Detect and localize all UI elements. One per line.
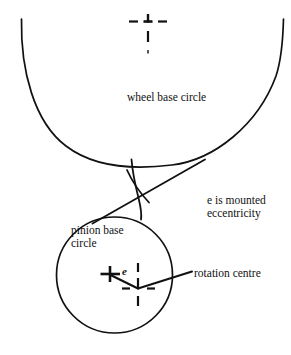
label-eccentricity-note: e is mountedeccentricity bbox=[207, 194, 266, 219]
label-e-symbol: e bbox=[122, 265, 127, 278]
rotation-centre-leader-line bbox=[138, 272, 192, 289]
label-pinion-base-circle: pinion basecircle bbox=[71, 224, 124, 249]
gear-diagram-canvas bbox=[0, 0, 291, 355]
gear-diagram: wheel base circle e is mountedeccentrici… bbox=[0, 0, 291, 355]
label-rotation-centre: rotation centre bbox=[194, 267, 261, 280]
label-wheel-base-circle: wheel base circle bbox=[127, 91, 206, 104]
label-pinion-base-circle-line2: circle bbox=[71, 237, 97, 249]
label-eccentricity-line2: eccentricity bbox=[207, 207, 261, 219]
wheel-tooth-involute-flank bbox=[132, 160, 142, 220]
label-eccentricity-line1: e is mounted bbox=[207, 194, 266, 206]
line-of-action bbox=[93, 160, 206, 224]
label-pinion-base-circle-line1: pinion base bbox=[71, 224, 124, 236]
wheel-rotation-centre-marker bbox=[129, 14, 167, 54]
